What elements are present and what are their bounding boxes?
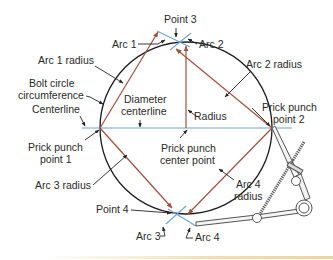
- compass-icon: [196, 126, 312, 226]
- label-arc3: Arc 3: [136, 230, 161, 242]
- label-arc2-radius: Arc 2 radius: [246, 58, 302, 70]
- label-prick-punch-point1-2: point 1: [40, 153, 72, 165]
- point4-arc-marks: [166, 206, 196, 226]
- label-arc2: Arc 2: [199, 38, 224, 50]
- label-bolt-circle-1: Bolt circle: [29, 77, 75, 89]
- label-arc3-radius: Arc 3 radius: [35, 179, 91, 191]
- label-arc1-radius: Arc 1 radius: [38, 54, 94, 66]
- label-arc1: Arc 1: [112, 38, 137, 50]
- label-prick-punch-point2-2: point 2: [273, 113, 305, 125]
- label-arc4: Arc 4: [195, 231, 220, 243]
- label-prick-punch-center-1: Prick punch: [161, 142, 216, 154]
- label-diameter-centerline-2: centerline: [121, 105, 167, 117]
- label-point3: Point 3: [164, 13, 197, 25]
- bolt-circle-diagram: Point 3 Arc 1 Arc 2 Arc 1 radius Arc 2 r…: [0, 0, 333, 260]
- label-prick-punch-center-2: center point: [160, 154, 215, 166]
- label-diameter-centerline-1: Diameter: [124, 93, 167, 105]
- bottom-decorative-band: [45, 256, 333, 259]
- label-point4: Point 4: [96, 203, 129, 215]
- label-prick-punch-point2-1: Prick punch: [262, 101, 317, 113]
- label-prick-punch-point1-1: Prick punch: [28, 141, 83, 153]
- label-centerline: Centerline: [32, 103, 80, 115]
- label-bolt-circle-2: circumference: [18, 89, 84, 101]
- label-arc4-radius-1: Arc 4: [236, 178, 261, 190]
- label-arc4-radius-2: radius: [234, 190, 263, 202]
- label-radius: Radius: [194, 110, 227, 122]
